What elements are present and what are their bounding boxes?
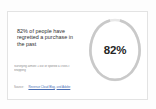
footnote-source: Source: Revenue Cloud Blog, and Adobe — [14, 74, 132, 92]
footnote-source-link-1[interactable]: Revenue Cloud Blog — [28, 85, 55, 89]
footnote-source-link-2[interactable]: and Adobe — [57, 85, 71, 89]
slide-canvas: 82% of people have regretted a purchase … — [0, 0, 156, 109]
footnote: Surveying almost 1 out of spotted a cros… — [14, 65, 132, 92]
page-title: 82% of people have regretted a purchase … — [17, 28, 79, 47]
statistic-card: 82% of people have regretted a purchase … — [7, 11, 148, 100]
footnote-source-label: Source: — [14, 85, 24, 89]
footnote-caption-line-2: shopping — [14, 69, 132, 73]
card-body: 82% of people have regretted a purchase … — [8, 12, 147, 99]
